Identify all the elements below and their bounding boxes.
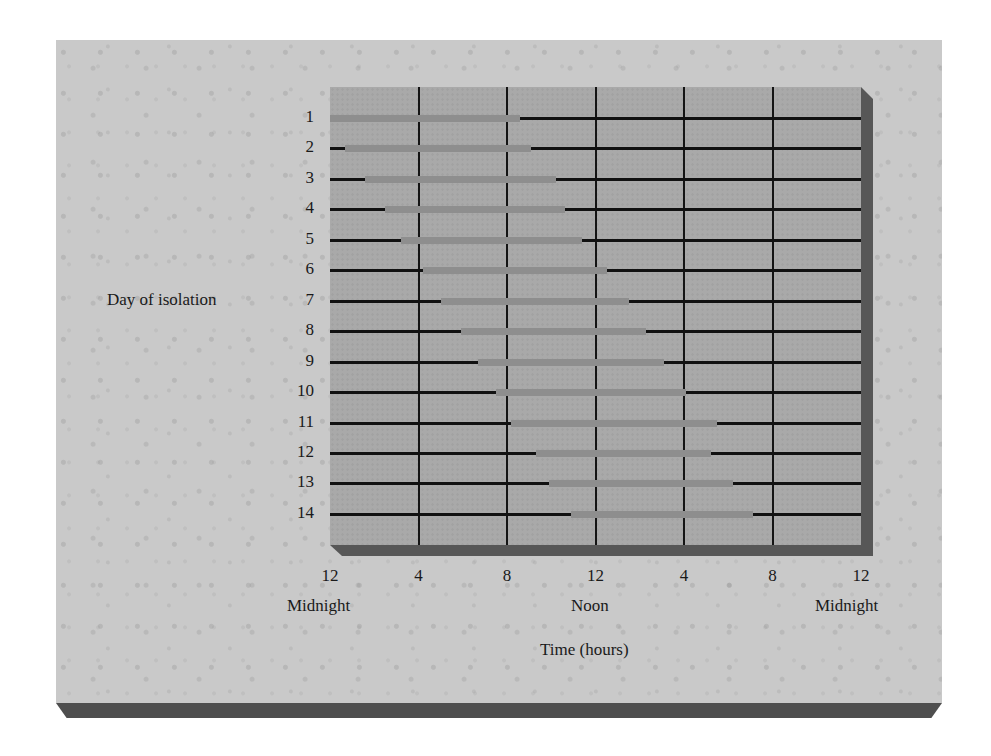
rest-bar bbox=[536, 450, 711, 457]
active-segment bbox=[330, 147, 345, 150]
rest-bar bbox=[423, 267, 607, 274]
y-tick-label: 12 bbox=[284, 443, 314, 461]
day-row bbox=[330, 478, 861, 488]
x-tick-label: 4 bbox=[664, 566, 704, 586]
active-segment bbox=[330, 452, 536, 455]
active-segment bbox=[753, 513, 861, 516]
active-segment bbox=[733, 482, 861, 485]
y-tick-label: 4 bbox=[284, 199, 314, 217]
y-tick-label: 5 bbox=[284, 230, 314, 248]
x-tick-label: 12 bbox=[576, 566, 616, 586]
plot-shadow-right bbox=[861, 87, 873, 556]
day-row bbox=[330, 143, 861, 153]
rest-bar bbox=[365, 176, 555, 183]
rest-bar bbox=[549, 480, 733, 487]
y-tick-label: 3 bbox=[284, 169, 314, 187]
gridline bbox=[506, 87, 508, 545]
day-row bbox=[330, 113, 861, 123]
active-segment bbox=[629, 300, 861, 303]
y-tick-label: 14 bbox=[284, 504, 314, 522]
day-row bbox=[330, 174, 861, 184]
gridline bbox=[418, 87, 420, 545]
y-tick-label: 8 bbox=[284, 321, 314, 339]
y-tick-label: 7 bbox=[284, 291, 314, 309]
gridline bbox=[595, 87, 597, 545]
day-row bbox=[330, 509, 861, 519]
plot-area bbox=[330, 87, 861, 545]
x-axis-title: Time (hours) bbox=[540, 640, 629, 660]
active-segment bbox=[711, 452, 861, 455]
active-segment bbox=[330, 300, 441, 303]
day-row bbox=[330, 418, 861, 428]
active-segment bbox=[330, 330, 461, 333]
active-segment bbox=[330, 513, 571, 516]
rest-bar bbox=[441, 298, 629, 305]
y-tick-label: 13 bbox=[284, 473, 314, 491]
active-segment bbox=[646, 330, 861, 333]
active-segment bbox=[556, 178, 861, 181]
active-segment bbox=[664, 361, 861, 364]
day-row bbox=[330, 235, 861, 245]
gridline bbox=[772, 87, 774, 545]
x-tick-label: 12 bbox=[841, 566, 881, 586]
day-row bbox=[330, 265, 861, 275]
rest-bar bbox=[385, 206, 564, 213]
active-segment bbox=[565, 208, 861, 211]
x-tick-label: 8 bbox=[487, 566, 527, 586]
active-segment bbox=[531, 147, 861, 150]
active-segment bbox=[520, 117, 861, 120]
x-tick-label: 4 bbox=[399, 566, 439, 586]
active-segment bbox=[330, 269, 423, 272]
y-tick-label: 2 bbox=[284, 138, 314, 156]
day-row bbox=[330, 296, 861, 306]
y-tick-label: 10 bbox=[284, 382, 314, 400]
x-sublabel-noon: Noon bbox=[571, 596, 609, 616]
rest-bar bbox=[330, 115, 520, 122]
panel-shadow bbox=[56, 703, 942, 718]
y-tick-label: 11 bbox=[284, 413, 314, 431]
rest-bar bbox=[478, 359, 664, 366]
x-sublabel-midnight-right: Midnight bbox=[815, 596, 878, 616]
active-segment bbox=[330, 178, 365, 181]
day-row bbox=[330, 204, 861, 214]
plot-shadow-bottom bbox=[330, 545, 873, 556]
active-segment bbox=[607, 269, 861, 272]
active-segment bbox=[330, 239, 401, 242]
active-segment bbox=[330, 361, 478, 364]
active-segment bbox=[330, 482, 549, 485]
y-axis-title: Day of isolation bbox=[107, 290, 217, 310]
active-segment bbox=[330, 422, 511, 425]
y-tick-label: 1 bbox=[284, 108, 314, 126]
rest-bar bbox=[461, 328, 647, 335]
day-row bbox=[330, 448, 861, 458]
active-segment bbox=[330, 391, 496, 394]
rest-bar bbox=[511, 420, 717, 427]
rest-bar bbox=[345, 145, 531, 152]
day-row bbox=[330, 326, 861, 336]
y-tick-label: 9 bbox=[284, 352, 314, 370]
x-tick-label: 8 bbox=[753, 566, 793, 586]
day-row bbox=[330, 387, 861, 397]
x-tick-label: 12 bbox=[310, 566, 350, 586]
rest-bar bbox=[496, 389, 686, 396]
rest-bar bbox=[571, 511, 752, 518]
day-row bbox=[330, 357, 861, 367]
active-segment bbox=[717, 422, 861, 425]
gridline bbox=[683, 87, 685, 545]
active-segment bbox=[330, 208, 385, 211]
x-sublabel-midnight-left: Midnight bbox=[287, 596, 350, 616]
y-tick-label: 6 bbox=[284, 260, 314, 278]
active-segment bbox=[582, 239, 861, 242]
rest-bar bbox=[401, 237, 582, 244]
active-segment bbox=[686, 391, 861, 394]
